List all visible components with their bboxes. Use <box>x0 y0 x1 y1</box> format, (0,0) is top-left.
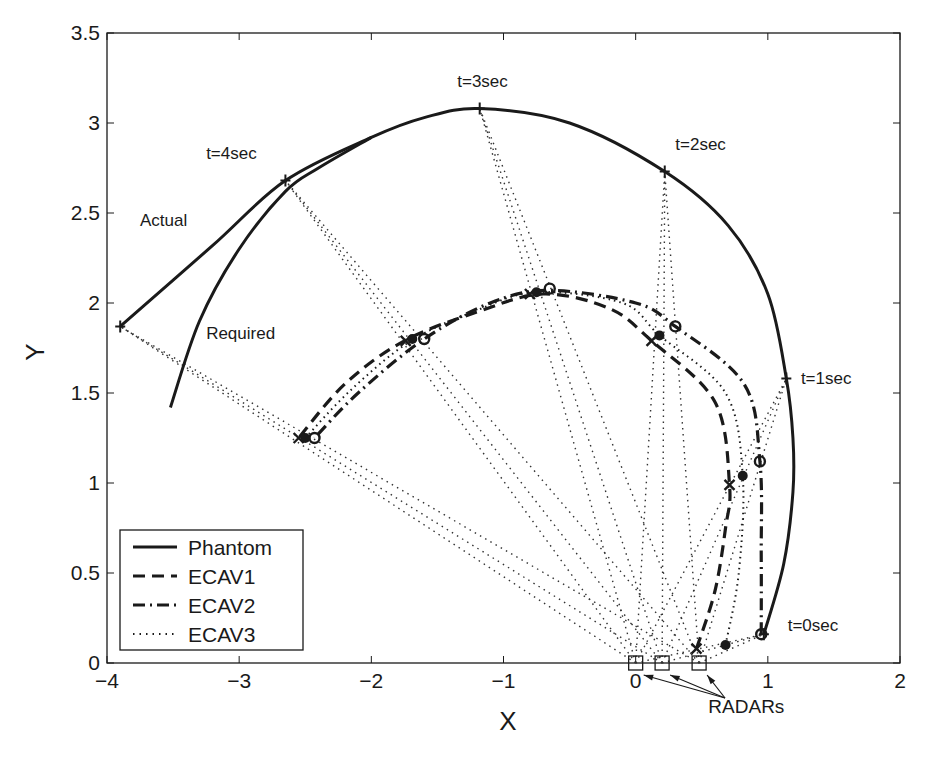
annotation-t-3sec: t=3sec <box>457 72 508 91</box>
radar-layer <box>629 656 725 698</box>
phantom-marker <box>660 166 670 178</box>
los-line <box>636 379 787 663</box>
y-tick-label: 3.5 <box>71 21 100 44</box>
x-tick-label: 1 <box>762 669 774 692</box>
legend-label-ecav2: ECAV2 <box>188 594 255 617</box>
y-tick-label: 3 <box>88 111 100 134</box>
legend-label-ecav3: ECAV3 <box>188 623 255 646</box>
los-line <box>285 181 662 663</box>
x-tick-label: 2 <box>894 669 906 692</box>
x-tick-label: −1 <box>492 669 516 692</box>
x-tick-label: 0 <box>630 669 642 692</box>
los-line <box>480 109 636 663</box>
annotation-t-4sec: t=4sec <box>206 144 257 163</box>
legend: PhantomECAV1ECAV2ECAV3 <box>120 530 303 650</box>
series-required <box>170 137 371 407</box>
y-axis-label: Y <box>20 343 50 360</box>
radar-arrow-head <box>670 675 680 681</box>
x-tick-label: −3 <box>227 669 251 692</box>
x-tick-label: −2 <box>359 669 383 692</box>
y-tick-label: 1.5 <box>71 381 100 404</box>
radar-arrow-head <box>707 675 715 684</box>
radar-arrow-head <box>644 675 654 681</box>
los-line <box>480 109 662 663</box>
annotation-t-2sec: t=2sec <box>675 135 726 154</box>
y-tick-label: 2 <box>88 291 100 314</box>
series-ecav1 <box>299 294 730 649</box>
legend-label-ecav1: ECAV1 <box>188 565 255 588</box>
ecav3-marker <box>532 287 542 297</box>
los-line <box>285 181 699 663</box>
los-line <box>480 109 699 663</box>
phantom-marker <box>781 373 791 385</box>
ecav3-marker <box>407 334 417 344</box>
ecav3-marker <box>721 640 731 650</box>
annotation-t-0sec: t=0sec <box>788 616 839 635</box>
los-line <box>699 379 786 663</box>
los-line <box>699 634 764 663</box>
los-line <box>636 172 665 663</box>
los-line <box>662 634 764 663</box>
series-ecav2 <box>315 290 762 634</box>
ecav3-marker <box>738 471 748 481</box>
ecav3-marker <box>300 433 310 443</box>
trajectory-chart: t=0sect=1sect=2sect=3sect=4secActualRequ… <box>0 0 933 761</box>
phantom-marker <box>475 103 485 115</box>
los-line <box>662 172 665 663</box>
y-tick-label: 0 <box>88 651 100 674</box>
annotation-required: Required <box>206 324 275 343</box>
annotation-t-1sec: t=1sec <box>801 369 852 388</box>
series-ecav3 <box>305 292 743 645</box>
y-tick-label: 0.5 <box>71 561 100 584</box>
y-tick-label: 2.5 <box>71 201 100 224</box>
annotation-actual: Actual <box>140 211 187 230</box>
ecav3-marker <box>654 330 664 340</box>
legend-label-phantom: Phantom <box>188 536 272 559</box>
y-tick-label: 1 <box>88 471 100 494</box>
annotation-radars: RADARs <box>708 696 784 717</box>
radar-arrow <box>644 675 725 698</box>
los-line <box>285 181 635 663</box>
x-axis-label: X <box>499 706 516 736</box>
